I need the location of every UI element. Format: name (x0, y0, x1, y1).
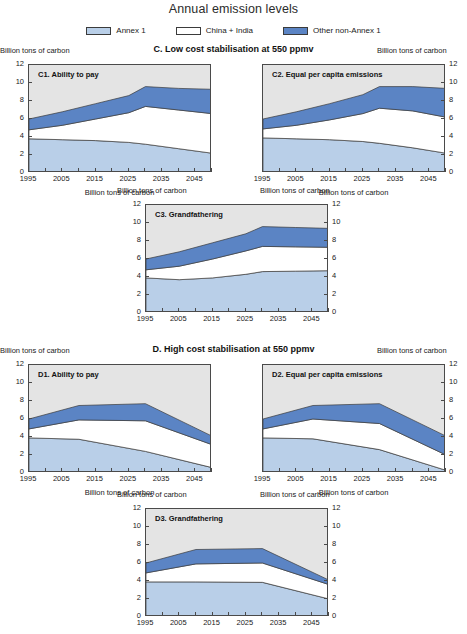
x-tick-mark (295, 168, 296, 172)
x-tick-label: 2025 (232, 315, 258, 323)
x-tick-mark (162, 612, 163, 616)
y-tick-label: 12 (8, 360, 24, 368)
y-tick-mark (324, 258, 328, 259)
y-tick-label: 10 (449, 78, 465, 86)
x-tick-label: 2045 (298, 619, 324, 627)
x-tick-mark (245, 308, 246, 312)
y-tick-mark (28, 454, 32, 455)
x-tick-mark (262, 468, 263, 472)
x-tick-label: 2025 (232, 619, 258, 627)
x-tick-mark (28, 468, 29, 472)
legend-label-china-india: China + India (206, 26, 253, 35)
y-tick-mark (324, 294, 328, 295)
plot-area-c2 (262, 64, 445, 172)
y-tick-mark (441, 418, 445, 419)
x-tick-mark (279, 468, 280, 472)
x-tick-mark (311, 612, 312, 616)
x-tick-mark (345, 468, 346, 472)
x-tick-mark (61, 468, 62, 472)
y-tick-mark (441, 136, 445, 137)
y-tick-label: 8 (8, 396, 24, 404)
y-tick-label: 6 (125, 254, 141, 262)
y-tick-label: 2 (332, 594, 348, 602)
x-tick-label: 2025 (349, 175, 375, 183)
x-tick-mark (144, 168, 145, 172)
y-tick-label: 4 (332, 576, 348, 584)
y-tick-mark (145, 598, 149, 599)
x-tick-mark (428, 168, 429, 172)
x-tick-label: 1995 (249, 175, 275, 183)
x-tick-label: 2005 (48, 175, 74, 183)
y-tick-label: 0 (449, 168, 465, 176)
y-tick-label: 12 (125, 200, 141, 208)
y-tick-mark (145, 276, 149, 277)
y-tick-mark (28, 154, 32, 155)
y-tick-mark (145, 562, 149, 563)
y-tick-mark (324, 544, 328, 545)
y-tick-label: 12 (8, 60, 24, 68)
x-tick-mark (312, 168, 313, 172)
y-tick-label: 0 (449, 468, 465, 476)
y-tick-label: 6 (332, 254, 348, 262)
y-tick-mark (324, 526, 328, 527)
chart-panel-d2: Billion tons of carbonD2. Equal per capi… (234, 356, 467, 496)
x-tick-mark (262, 168, 263, 172)
y-tick-mark (324, 562, 328, 563)
x-tick-label: 1995 (132, 315, 158, 323)
y-tick-label: 10 (449, 378, 465, 386)
y-tick-mark (324, 580, 328, 581)
x-tick-mark (45, 468, 46, 472)
y-tick-label: 0 (332, 612, 348, 620)
y-tick-label: 2 (332, 290, 348, 298)
x-tick-label: 2045 (181, 175, 207, 183)
x-tick-mark (362, 468, 363, 472)
page-title: Annual emission levels (0, 2, 467, 16)
x-tick-mark (78, 168, 79, 172)
y-tick-label: 10 (125, 522, 141, 530)
y-tick-label: 8 (332, 236, 348, 244)
y-tick-label: 10 (332, 218, 348, 226)
y-tick-mark (324, 240, 328, 241)
x-tick-mark (261, 612, 262, 616)
x-tick-mark (161, 468, 162, 472)
x-tick-label: 2025 (115, 175, 141, 183)
y-tick-label: 2 (8, 450, 24, 458)
y-tick-mark (145, 526, 149, 527)
x-tick-label: 2015 (82, 175, 108, 183)
x-tick-mark (162, 308, 163, 312)
axis-caption: Billion tons of carbon (377, 46, 447, 55)
x-tick-mark (295, 612, 296, 616)
y-tick-mark (145, 222, 149, 223)
x-tick-label: 2035 (265, 619, 291, 627)
panel-title-c3: C3. Grandfathering (155, 210, 223, 219)
x-tick-label: 2035 (382, 475, 408, 483)
axis-caption: Billion tons of carbon (117, 186, 187, 195)
y-tick-label: 12 (449, 360, 465, 368)
y-tick-mark (145, 294, 149, 295)
x-tick-mark (45, 168, 46, 172)
y-tick-label: 4 (8, 132, 24, 140)
y-tick-mark (441, 382, 445, 383)
x-tick-mark (412, 168, 413, 172)
y-tick-mark (324, 598, 328, 599)
x-tick-mark (28, 168, 29, 172)
y-tick-mark (441, 400, 445, 401)
y-tick-mark (28, 382, 32, 383)
y-tick-mark (441, 154, 445, 155)
y-tick-label: 12 (449, 60, 465, 68)
x-tick-mark (279, 168, 280, 172)
x-tick-mark (445, 168, 446, 172)
y-tick-mark (441, 118, 445, 119)
y-tick-label: 4 (449, 132, 465, 140)
x-tick-mark (378, 468, 379, 472)
x-tick-mark (345, 168, 346, 172)
legend-label-annex-1: Annex 1 (116, 26, 145, 35)
y-tick-mark (441, 100, 445, 101)
x-tick-mark (61, 168, 62, 172)
x-tick-mark (178, 308, 179, 312)
y-tick-label: 6 (332, 558, 348, 566)
x-tick-mark (311, 308, 312, 312)
x-tick-label: 2005 (48, 475, 74, 483)
x-tick-mark (194, 468, 195, 472)
chart-legend: Annex 1 China + India Other non-Annex 1 (0, 26, 467, 35)
